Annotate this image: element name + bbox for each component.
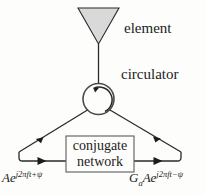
element-label: element — [124, 21, 171, 36]
left-signal-exponent: j2πft+ψ — [16, 169, 43, 179]
conjugate-network-line2: network — [77, 154, 123, 170]
right-signal-base: Ae — [143, 170, 157, 185]
element-triangle-icon — [78, 8, 119, 44]
circulator-label: circulator — [121, 67, 178, 82]
bottom-left-arrowhead-icon — [38, 157, 47, 165]
right-signal-exponent: j2πft−ψ — [156, 169, 183, 179]
circulator-arrowhead-icon — [94, 88, 100, 93]
diagram-canvas: element circulator conjugate network Aej… — [0, 0, 205, 195]
right-signal-gain: G — [129, 170, 138, 185]
left-signal-label: Aej2πft+ψ — [2, 171, 42, 184]
right-signal-label: GaAej2πft−ψ — [129, 171, 183, 184]
conjugate-network-box-text: conjugate network — [66, 136, 134, 172]
bottom-right-arrowhead-icon — [154, 157, 163, 165]
left-signal-base: Ae — [2, 170, 16, 185]
conjugate-network-line1: conjugate — [73, 138, 127, 154]
